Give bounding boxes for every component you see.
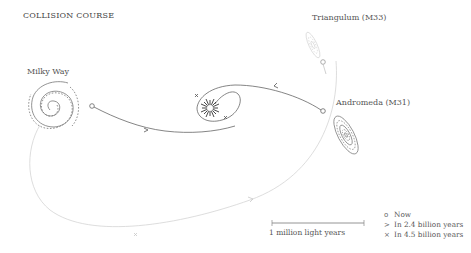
cross-icon <box>195 94 198 97</box>
chevron-icon: > <box>384 220 394 230</box>
chevron-icon <box>274 83 278 88</box>
legend: o Now > In 2.4 billion years × In 4.5 bi… <box>384 210 463 240</box>
triangulum-orbit-path <box>30 61 337 227</box>
milky-way-label: Milky Way <box>27 67 69 76</box>
triangulum-label: Triangulum (M33) <box>312 13 386 22</box>
legend-item-now: o Now <box>384 210 463 220</box>
andromeda-path <box>197 85 321 121</box>
legend-label: In 4.5 billion years <box>394 230 463 240</box>
andromeda-label: Andromeda (M31) <box>336 98 410 107</box>
legend-item-2-4-billion: > In 2.4 billion years <box>384 220 463 230</box>
triangulum-now-marker <box>321 60 326 65</box>
legend-item-4-5-billion: × In 4.5 billion years <box>384 230 463 240</box>
faint-cross-icon <box>134 233 137 236</box>
triangulum-galaxy <box>303 31 322 60</box>
legend-label: In 2.4 billion years <box>394 220 463 230</box>
milky-way-path <box>94 107 235 132</box>
cross-icon: × <box>384 230 394 240</box>
scale-bar-label: 1 million light years <box>269 228 345 237</box>
milky-way-galaxy <box>29 82 79 129</box>
milky-way-now-marker <box>90 104 95 109</box>
andromeda-galaxy <box>329 113 363 158</box>
circle-icon: o <box>384 210 394 220</box>
legend-label: Now <box>394 210 411 220</box>
chevron-icon <box>144 128 148 132</box>
andromeda-now-marker <box>321 109 326 114</box>
